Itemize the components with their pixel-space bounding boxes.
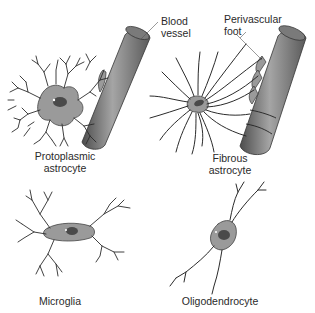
perivascular-foot-label-line1: Perivascular <box>224 13 282 25</box>
fibrous-astrocyte-label: Fibrous astrocyte <box>200 152 260 176</box>
microglia <box>16 190 130 276</box>
perivascular-foot-label-line2: foot <box>224 25 282 37</box>
blood-vessel-label-line2: vessel <box>161 27 191 39</box>
blood-vessel-label: Blood vessel <box>161 15 191 39</box>
blood-vessel-label-line1: Blood <box>161 15 191 27</box>
perivascular-foot-label: Perivascular foot <box>224 13 282 37</box>
microglia-label-text: Microglia <box>30 295 90 307</box>
blood-vessel-right <box>240 23 307 155</box>
oligodendrocyte <box>170 182 266 294</box>
protoplasmic-label-line2: astrocyte <box>30 162 100 174</box>
blood-vessel-left <box>82 24 151 150</box>
glial-cells-diagram: Blood vessel Perivascular foot Protoplas… <box>0 0 315 313</box>
microglia-label: Microglia <box>30 295 90 307</box>
protoplasmic-astrocyte-label: Protoplasmic astrocyte <box>30 150 100 174</box>
fibrous-label-line1: Fibrous <box>200 152 260 164</box>
oligodendrocyte-label-text: Oligodendrocyte <box>170 295 270 307</box>
protoplasmic-label-line1: Protoplasmic <box>30 150 100 162</box>
oligodendrocyte-label: Oligodendrocyte <box>170 295 270 307</box>
fibrous-label-line2: astrocyte <box>200 164 260 176</box>
